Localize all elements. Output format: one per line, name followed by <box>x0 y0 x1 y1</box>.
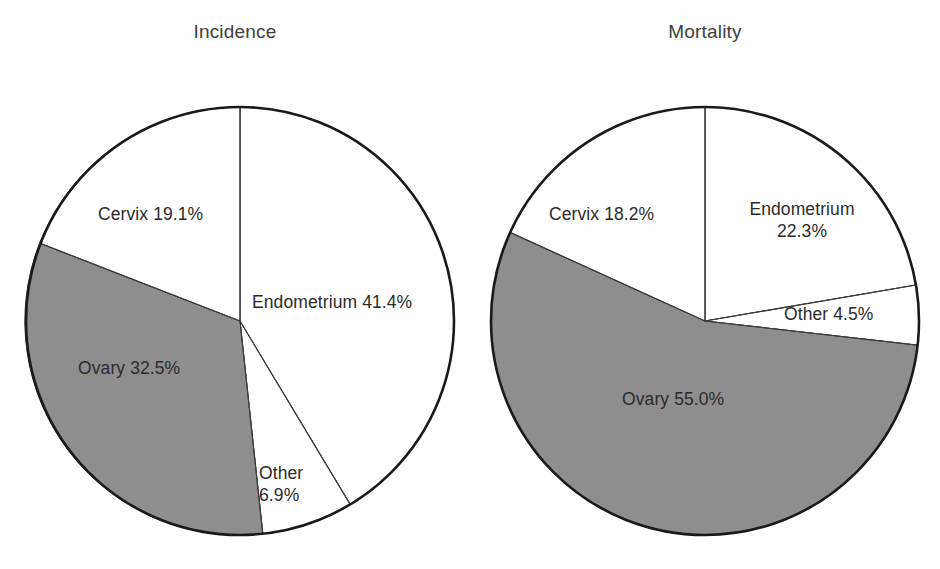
pie-label-incidence-endometrium: Endometrium 41.4% <box>252 291 412 313</box>
pie-label-incidence-ovary: Ovary 32.5% <box>78 357 180 379</box>
pie-panel-mortality: Mortality Cervix 18.2% Endometrium 22.3%… <box>470 0 940 569</box>
pie-label-mortality-other: Other 4.5% <box>784 303 874 325</box>
pie-svg-incidence <box>0 0 470 569</box>
pie-label-mortality-ovary: Ovary 55.0% <box>622 388 724 410</box>
pie-label-mortality-cervix: Cervix 18.2% <box>549 203 654 225</box>
pie-svg-mortality <box>470 0 940 569</box>
pie-label-incidence-cervix: Cervix 19.1% <box>98 203 203 225</box>
pie-label-mortality-endometrium-name: Endometrium <box>717 198 887 220</box>
pie-label-incidence-other-name: Other <box>259 462 329 484</box>
pie-label-incidence-other-value: 6.9% <box>259 484 329 506</box>
pie-label-mortality-endometrium-value: 22.3% <box>717 220 887 242</box>
pie-panel-incidence: Incidence Cervix 19.1% Endometrium 41.4%… <box>0 0 470 569</box>
pie-label-incidence-other: Other 6.9% <box>259 462 329 507</box>
pie-label-mortality-endometrium: Endometrium 22.3% <box>717 198 887 243</box>
two-pie-chart-figure: Incidence Cervix 19.1% Endometrium 41.4%… <box>0 0 940 569</box>
